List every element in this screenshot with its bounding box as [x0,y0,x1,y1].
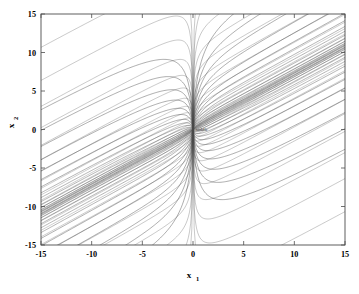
y-axis-title: x [6,123,16,128]
x-tick-label: -5 [139,250,146,259]
y-tick-label: 10 [28,49,36,58]
y-tick-label: 5 [32,87,36,96]
equilibrium-label: saddle [196,127,208,132]
x-tick-label: 10 [290,250,298,259]
y-tick-label: -10 [25,203,36,212]
x-tick-label: -10 [86,250,97,259]
x-tick-label: -15 [36,250,47,259]
y-tick-label: 15 [28,10,36,19]
phase-portrait-chart: -15-10-5051015-15-10-5051015 saddle x 1 … [0,0,359,294]
x-tick-label: 0 [191,250,195,259]
x-axis-title: x [187,270,192,280]
y-tick-label: -15 [25,241,36,250]
equilibrium-annotation: saddle [196,127,208,132]
x-tick-label: 5 [242,250,246,259]
y-axis-title-subscript: 2 [12,117,19,120]
figure-canvas: -15-10-5051015-15-10-5051015 saddle x 1 … [0,0,359,294]
x-axis-title-subscript: 1 [196,275,199,282]
x-tick-label: 15 [341,250,349,259]
y-tick-label: 0 [32,126,36,135]
y-tick-label: -5 [29,164,36,173]
